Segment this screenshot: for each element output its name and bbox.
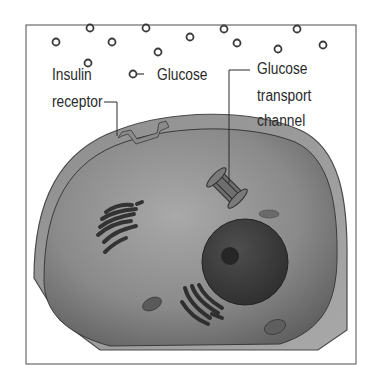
insulin-label-line2: receptor [52, 92, 102, 111]
transport-label-line1: Glucose [257, 59, 307, 78]
glucose-molecule-icon [155, 49, 162, 56]
mitochondrion [259, 210, 279, 218]
glucose-molecule-icon [221, 26, 228, 33]
glucose-molecule-icon [187, 34, 194, 41]
insulin-label-line1: Insulin [52, 65, 92, 84]
transport-label-line3: channel [257, 111, 305, 130]
glucose-molecule-icon [87, 25, 94, 32]
glucose-molecule-icon [53, 39, 60, 46]
glucose-molecule-icon [275, 46, 282, 53]
glucose-molecule-icon [294, 26, 301, 33]
glucose-molecule-icon [143, 25, 150, 32]
nucleolus [221, 247, 239, 265]
glucose-molecule-icon [109, 39, 116, 46]
glucose-molecule-icon [320, 42, 327, 49]
transport-label-line2: transport [257, 86, 311, 105]
cell-diagram [0, 0, 382, 388]
glucose-molecule-icon [234, 40, 241, 47]
glucose-label: Glucose [157, 65, 207, 84]
nucleus [202, 219, 288, 305]
